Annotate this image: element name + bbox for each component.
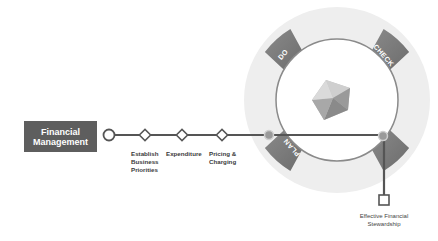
start-box-line1: Financial [41,127,80,137]
act-junction-node [379,132,388,141]
plan-junction-node [265,131,274,140]
start-node [104,130,115,141]
step-label-establish: Establish Business Priorities [131,150,159,174]
step-label-expenditure: Expenditure [166,150,202,158]
outcome-label: Effective Financial Stewardship [344,212,424,228]
step-node-expenditure [176,129,187,140]
step-node-pricing [216,129,227,140]
financial-management-box: Financial Management [24,121,97,152]
start-box-line2: Management [33,137,88,147]
step-label-pricing: Pricing & Charging [209,150,236,166]
step-node-establish [139,129,150,140]
outcome-node [379,195,389,205]
